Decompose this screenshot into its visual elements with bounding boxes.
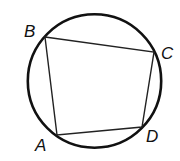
vertex-label-d: D [146,127,158,146]
vertex-label-c: C [161,44,174,63]
vertex-label-b: B [24,22,35,41]
quadrilateral-abcd [45,37,154,135]
vertex-label-a: A [34,136,46,155]
cyclic-quadrilateral-diagram: A B C D [0,0,180,161]
